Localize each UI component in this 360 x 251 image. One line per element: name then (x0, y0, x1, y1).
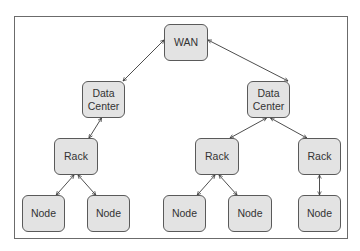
node-label-4: Node (237, 207, 262, 220)
rack-box-1: Rack (54, 138, 98, 175)
node-label-3: Node (172, 207, 197, 220)
edge-rack1-node2 (78, 175, 96, 195)
data-center-label-left: Data Center (88, 87, 120, 113)
edge-wan-dc2 (208, 40, 288, 81)
edge-wan-dc1 (123, 40, 164, 81)
edge-dc2-rack2 (230, 118, 267, 138)
data-center-box-left: Data Center (82, 81, 125, 118)
node-box-1: Node (22, 195, 65, 232)
wan-label: WAN (174, 36, 198, 49)
rack-label-3: Rack (308, 150, 332, 163)
data-center-box-right: Data Center (247, 81, 290, 118)
node-box-5: Node (298, 195, 341, 232)
edge-rack2-node4 (219, 175, 237, 195)
rack-box-3: Rack (298, 138, 341, 175)
rack-label-1: Rack (64, 150, 88, 163)
node-label-1: Node (31, 207, 56, 220)
wan-box: WAN (164, 24, 208, 61)
edge-rack1-node1 (56, 175, 74, 195)
rack-label-2: Rack (205, 150, 229, 163)
edge-rack2-node3 (197, 175, 215, 195)
node-box-4: Node (228, 195, 272, 232)
data-center-label-right: Data Center (253, 87, 285, 113)
node-label-5: Node (307, 207, 332, 220)
node-box-2: Node (87, 195, 130, 232)
edge-dc2-rack3 (271, 118, 307, 138)
edge-dc1-rack1 (89, 118, 102, 138)
node-box-3: Node (163, 195, 206, 232)
node-label-2: Node (96, 207, 121, 220)
rack-box-2: Rack (195, 138, 239, 175)
